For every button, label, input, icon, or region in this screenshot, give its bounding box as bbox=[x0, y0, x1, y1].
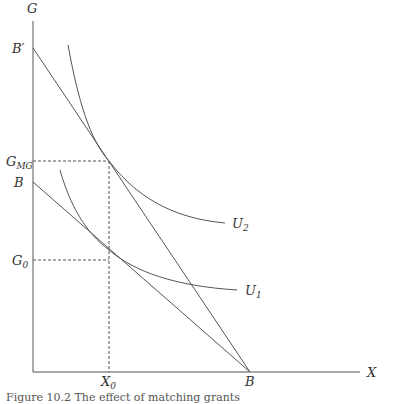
g-axis-label: G bbox=[27, 1, 37, 16]
indifference-curve-u1 bbox=[60, 170, 237, 290]
u1-label: U1 bbox=[245, 283, 262, 300]
b-g-intercept-label: B bbox=[13, 175, 24, 190]
u2-label: U2 bbox=[232, 216, 249, 233]
b-prime-label: B′ bbox=[11, 41, 25, 56]
g-mg-label: GMG bbox=[6, 154, 33, 171]
x0-label: X0 bbox=[100, 374, 116, 391]
b-x-intercept-label: B bbox=[244, 374, 255, 389]
indifference-curve-u2 bbox=[68, 45, 225, 223]
x-axis-label: X bbox=[366, 365, 377, 380]
figure-caption: Figure 10.2 The effect of matching grant… bbox=[6, 391, 240, 404]
g0-label: G0 bbox=[12, 253, 28, 270]
